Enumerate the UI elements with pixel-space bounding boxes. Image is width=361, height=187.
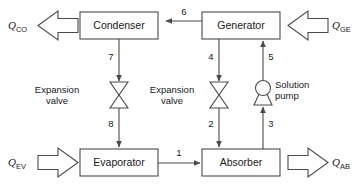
expansion-valve-right-label-line2: valve <box>161 95 183 106</box>
expansion-valve-left[interactable]: Expansion valve <box>35 82 128 108</box>
expansion-valve-right-label-line1: Expansion <box>150 84 194 95</box>
solution-pump-label-line1: Solution <box>275 79 309 90</box>
stream-4-label: 4 <box>208 51 213 62</box>
solution-pump-label-line2: pump <box>275 90 299 101</box>
stream-1-label: 1 <box>176 147 181 158</box>
heat-arrow-q-ab: QAB <box>288 148 350 177</box>
diagram-canvas: Condenser Generator Evaporator Absorber … <box>0 0 361 187</box>
absorption-cycle-diagram: Condenser Generator Evaporator Absorber … <box>0 0 361 187</box>
stream-1-group: 1 <box>158 147 200 163</box>
q-ge-label: QGE <box>332 19 351 34</box>
q-ev-arrow-shape <box>38 148 78 177</box>
expansion-valve-right[interactable]: Expansion valve <box>150 82 228 108</box>
stream-3-label: 3 <box>268 118 273 129</box>
stream-8-group: 8 <box>108 108 119 147</box>
q-co-arrow-shape <box>38 11 78 40</box>
stream-8-label: 8 <box>108 118 113 129</box>
expansion-valve-left-label-line2: valve <box>46 95 68 106</box>
heat-arrow-q-co: QCO <box>8 11 78 40</box>
stream-6-label: 6 <box>181 6 186 17</box>
expansion-valve-left-upper-triangle <box>110 82 128 95</box>
solution-pump[interactable]: Solution pump <box>254 79 309 105</box>
unit-evaporator[interactable]: Evaporator <box>80 149 158 176</box>
absorber-label: Absorber <box>220 156 263 168</box>
stream-7-label: 7 <box>108 51 113 62</box>
stream-5-group: 5 <box>263 41 274 81</box>
stream-6-group: 6 <box>166 6 202 21</box>
heat-arrow-q-ge: QGE <box>288 11 351 40</box>
q-ab-label: QAB <box>332 156 350 171</box>
q-ab-arrow-shape <box>288 148 328 177</box>
heat-arrow-q-ev: QEV <box>8 148 78 177</box>
stream-2-group: 2 <box>208 108 219 147</box>
expansion-valve-right-lower-triangle <box>210 95 228 108</box>
evaporator-label: Evaporator <box>93 156 145 168</box>
unit-generator[interactable]: Generator <box>202 12 280 39</box>
q-ev-label: QEV <box>8 156 26 171</box>
q-ge-arrow-shape <box>288 11 328 40</box>
stream-4-group: 4 <box>208 39 219 81</box>
stream-5-label: 5 <box>268 51 273 62</box>
unit-condenser[interactable]: Condenser <box>80 12 158 39</box>
unit-absorber[interactable]: Absorber <box>202 149 280 176</box>
stream-3-group: 3 <box>263 107 274 149</box>
expansion-valve-right-upper-triangle <box>210 82 228 95</box>
expansion-valve-left-label-line1: Expansion <box>35 84 79 95</box>
expansion-valve-left-lower-triangle <box>110 95 128 108</box>
generator-label: Generator <box>217 19 265 31</box>
stream-7-group: 7 <box>108 39 119 81</box>
solution-pump-circle <box>256 81 271 96</box>
stream-2-label: 2 <box>208 118 213 129</box>
condenser-label: Condenser <box>93 19 145 31</box>
q-co-label: QCO <box>8 19 27 34</box>
